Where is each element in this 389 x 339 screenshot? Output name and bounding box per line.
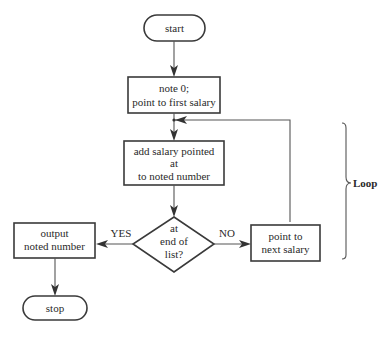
flowchart-canvas: start note 0; point to first salary add … bbox=[0, 0, 389, 339]
loop-brace-icon bbox=[342, 123, 351, 259]
output-line2: noted number bbox=[24, 240, 85, 252]
start-terminal: start bbox=[144, 15, 205, 41]
add-line3: to noted number bbox=[138, 170, 210, 182]
loop-label: Loop bbox=[353, 177, 377, 189]
yes-label: YES bbox=[111, 227, 132, 239]
no-label: NO bbox=[219, 227, 235, 239]
add-line1: add salary pointed bbox=[134, 145, 215, 157]
init-line2: point to first salary bbox=[132, 96, 216, 108]
add-process-box: add salary pointed at to noted number bbox=[124, 141, 224, 185]
init-process-box: note 0; point to first salary bbox=[128, 77, 220, 113]
stop-label: stop bbox=[46, 302, 65, 314]
decision-line3: list? bbox=[165, 248, 183, 260]
stop-terminal: stop bbox=[23, 296, 87, 320]
decision-diamond: at end of list? bbox=[133, 217, 214, 272]
next-line2: next salary bbox=[262, 243, 310, 255]
output-process-box: output noted number bbox=[14, 223, 95, 258]
decision-line2: end of bbox=[160, 235, 188, 247]
decision-line1: at bbox=[170, 222, 178, 234]
add-line2: at bbox=[170, 157, 178, 169]
start-label: start bbox=[165, 22, 184, 34]
init-line1: note 0; bbox=[159, 82, 189, 94]
output-line1: output bbox=[40, 227, 68, 239]
next-line1: point to bbox=[269, 230, 303, 242]
next-process-box: point to next salary bbox=[251, 225, 320, 261]
